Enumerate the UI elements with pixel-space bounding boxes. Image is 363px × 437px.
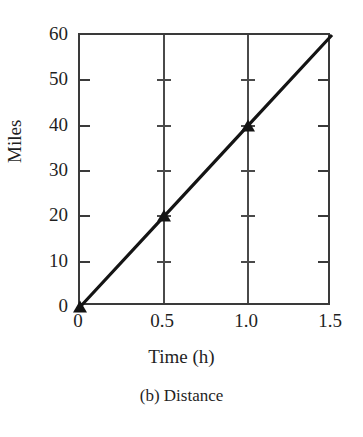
gridline-cross-tick [157,261,171,263]
gridline-cross-tick [241,261,255,263]
y-axis-tick-left [80,170,90,172]
y-axis-tick-left [80,261,90,263]
y-axis-tick-label: 60 [49,24,68,43]
x-axis-tick-label: 0.5 [150,311,174,330]
data-point-marker [241,119,255,131]
y-axis-tick-left [80,79,90,81]
y-axis-tick-left [80,125,90,127]
x-axis-label: Time (h) [0,346,363,368]
gridline-cross-tick [157,125,171,127]
y-axis-tick-label: 50 [49,69,68,88]
gridline-cross-tick [157,79,171,81]
y-axis-tick-right [318,79,328,81]
y-axis-tick-right [318,125,328,127]
data-series-line [80,35,332,307]
figure-distance-chart: Miles 0102030405060 00.51.01.5 Time (h) … [0,0,363,437]
y-axis-tick-right [318,261,328,263]
gridline-cross-tick [241,170,255,172]
y-axis-tick-labels: 0102030405060 [0,0,74,437]
y-axis-tick-label: 40 [49,114,68,133]
vertical-gridline [247,35,249,303]
x-axis-tick-labels: 00.51.01.5 [0,307,363,341]
gridline-cross-tick [157,170,171,172]
figure-caption: (b) Distance [0,386,363,406]
gridline-cross-tick [241,215,255,217]
x-axis-tick-label: 0 [73,311,83,330]
x-axis-tick-label: 1.0 [234,311,258,330]
y-axis-tick-label: 20 [49,205,68,224]
x-axis-tick-label: 1.5 [318,311,342,330]
y-axis-tick-right [318,215,328,217]
y-axis-tick-right [318,170,328,172]
y-axis-tick-label: 10 [49,250,68,269]
plot-area [78,33,330,305]
y-axis-tick-left [80,215,90,217]
y-axis-tick-label: 30 [49,160,68,179]
gridline-cross-tick [241,79,255,81]
data-point-marker [157,210,171,222]
vertical-gridline [163,35,165,303]
